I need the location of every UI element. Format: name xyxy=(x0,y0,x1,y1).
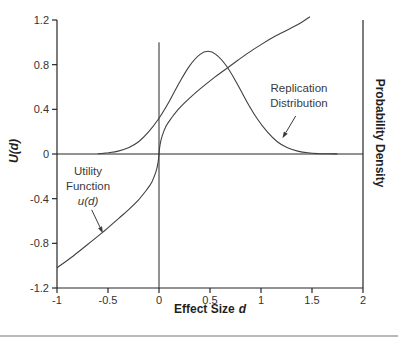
bottom-divider-rule xyxy=(0,335,398,337)
x-tick-label: 1.5 xyxy=(304,294,319,306)
utility-annotation-line3: u(d) xyxy=(33,194,143,209)
right-y-axis-label-text: Probability Density xyxy=(373,79,387,188)
replication-annotation-line1: Replication xyxy=(244,81,354,96)
annotation-arrowhead xyxy=(98,226,103,233)
x-tick-label: -1 xyxy=(52,294,62,306)
y-tick-label: 0.8 xyxy=(34,59,49,71)
right-y-axis-label: Probability Density xyxy=(371,63,387,203)
left-y-axis-label: U(d) xyxy=(7,121,23,181)
annotation-arrow-shaft xyxy=(92,210,100,227)
utility-annotation-line1: Utility xyxy=(33,164,143,179)
x-tick-label: -0.5 xyxy=(99,294,118,306)
x-axis-label-text: Effect Size xyxy=(174,302,235,316)
utility-function-annotation: Utility Function u(d) xyxy=(33,164,143,209)
annotation-arrow-shaft xyxy=(286,116,296,132)
utility-annotation-line2: Function xyxy=(33,179,143,194)
left-y-axis-label-text: U(d) xyxy=(7,139,21,163)
y-tick-label: 1.2 xyxy=(34,14,49,26)
x-axis-label: Effect Sized xyxy=(140,302,280,318)
y-tick-label: 0.4 xyxy=(34,103,49,115)
utility-curve xyxy=(57,17,310,268)
figure-utility-replication-chart: 1.20.80.40-0.4-0.8-1.2-1-0.500.511.52 U(… xyxy=(0,0,398,341)
y-tick-label: 0 xyxy=(43,148,49,160)
y-tick-label: -0.8 xyxy=(30,237,49,249)
replication-annotation-line2: Distribution xyxy=(244,96,354,111)
replication-distribution-annotation: Replication Distribution xyxy=(244,81,354,111)
annotation-arrowhead xyxy=(282,132,287,139)
x-tick-label: 2 xyxy=(360,294,366,306)
x-axis-label-variable: d xyxy=(239,302,246,316)
y-tick-label: -1.2 xyxy=(30,282,49,294)
